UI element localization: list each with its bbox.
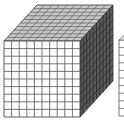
partial-adjacent-cube (119, 35, 124, 116)
partial-cube-top (119, 35, 124, 40)
base-ten-cube (4, 5, 113, 117)
thousands-cube-diagram (0, 0, 124, 124)
